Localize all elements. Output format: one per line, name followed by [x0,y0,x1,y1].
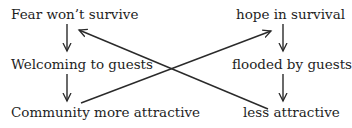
node-hope-in-survival: hope in survival [236,6,345,22]
node-less-attractive: less attractive [243,104,340,120]
node-welcoming-to-guests: Welcoming to guests [11,56,153,72]
node-flooded-by-guests: flooded by guests [232,56,352,72]
node-fear-wont-survive: Fear won’t survive [11,6,138,22]
node-community-more-attractive: Community more attractive [11,104,200,120]
